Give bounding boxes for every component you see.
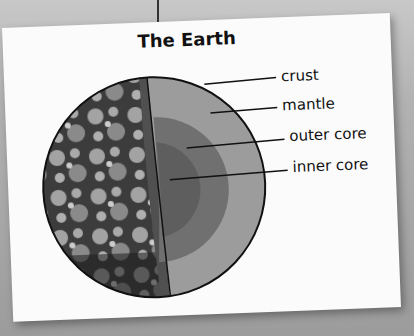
label-mantle: mantle (282, 94, 335, 114)
background-line (157, 0, 159, 24)
crust-leader-line (204, 78, 276, 85)
label-outer-core: outer core (289, 124, 367, 145)
earth-diagram-card: The Earth crust (2, 13, 401, 322)
label-inner-core: inner core (292, 155, 368, 176)
label-crust: crust (281, 66, 319, 85)
earth-globe (34, 63, 393, 316)
